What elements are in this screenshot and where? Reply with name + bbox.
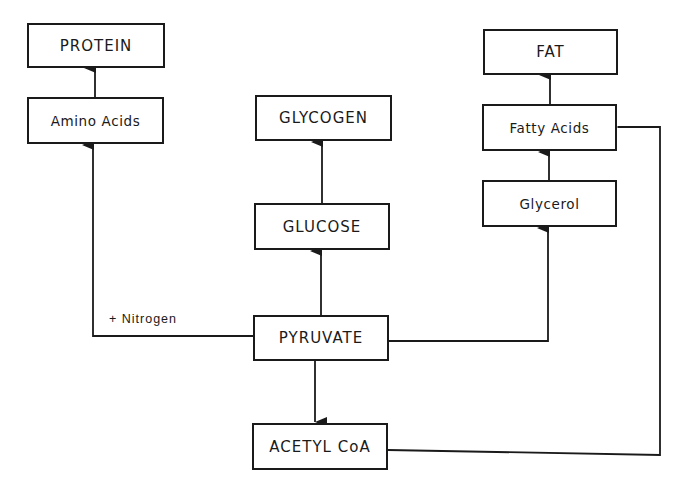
edge-label-nitrogen: + Nitrogen <box>109 312 177 326</box>
node-amino-acids: Amino Acids <box>27 97 164 144</box>
arrow-acetylcoa-to-fattyacids <box>388 127 660 455</box>
node-glycogen: GLYCOGEN <box>255 95 392 141</box>
node-acetyl-coa: ACETYL CoA <box>252 423 388 470</box>
node-fat: FAT <box>483 29 618 75</box>
node-glycerol: Glycerol <box>482 180 617 227</box>
node-protein: PROTEIN <box>27 23 165 68</box>
arrow-pyruvate-to-amino <box>93 145 253 336</box>
node-fatty-acids: Fatty Acids <box>482 104 617 151</box>
node-glucose: GLUCOSE <box>254 203 390 250</box>
node-pyruvate: PYRUVATE <box>253 315 389 361</box>
arrow-pyruvate-to-glycerol <box>389 228 548 341</box>
